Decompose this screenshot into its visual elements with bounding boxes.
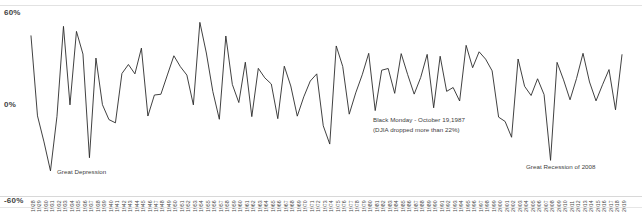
bottom-divider — [0, 207, 642, 208]
plot-area — [0, 0, 642, 213]
annotation-great-recession: Great Recession of 2008 — [526, 163, 596, 170]
annotation-great-depression: Great Depression — [57, 168, 106, 175]
annual-returns-line-chart: 60% 0% -60% Great Depression Black Monda… — [0, 0, 642, 213]
annotation-black-monday-title: Black Monday - October 19,1987 — [373, 116, 465, 123]
x-axis-line — [0, 196, 642, 197]
returns-series-line — [31, 22, 622, 171]
annotation-black-monday-detail: (DJIA dropped more than 22%) — [373, 126, 460, 133]
x-axis-labels: 1928192919301931193219331934193519361937… — [0, 198, 642, 213]
